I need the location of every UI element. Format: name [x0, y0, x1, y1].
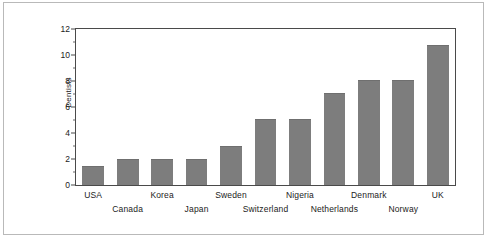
bar-nigeria: [289, 119, 311, 185]
bar-denmark: [358, 80, 380, 185]
x-tick-label-switzerland: Switzerland: [243, 204, 289, 214]
x-tick-label-canada: Canada: [112, 204, 143, 214]
bar-slot: [317, 29, 351, 185]
bar-slot: [352, 29, 386, 185]
bar-japan: [186, 159, 208, 185]
y-tick-label: 2: [65, 154, 70, 164]
figure-container: Dentists 024681012 USACanadaKoreaJapanSw…: [0, 0, 488, 238]
y-tick-label: 0: [65, 180, 70, 190]
bar-norway: [392, 80, 414, 185]
y-tick-label: 6: [65, 102, 70, 112]
bar-korea: [151, 159, 173, 185]
bar-slot: [145, 29, 179, 185]
bar-slot: [386, 29, 420, 185]
y-tick-label: 4: [65, 128, 70, 138]
bar-slot: [110, 29, 144, 185]
x-tick-label-nigeria: Nigeria: [286, 190, 314, 200]
bar-canada: [117, 159, 139, 185]
bar-usa: [82, 166, 104, 186]
x-axis-labels: USACanadaKoreaJapanSwedenSwitzerlandNige…: [76, 186, 455, 232]
y-axis-ticks: 024681012: [52, 28, 75, 186]
bar-slot: [179, 29, 213, 185]
y-tick-label: 8: [65, 76, 70, 86]
bar-series: [76, 29, 455, 185]
bar-slot: [421, 29, 455, 185]
bar-slot: [214, 29, 248, 185]
bar-slot: [248, 29, 282, 185]
y-tick-label: 10: [61, 50, 70, 60]
bar-switzerland: [255, 119, 277, 185]
bar-netherlands: [324, 93, 346, 185]
bar-slot: [76, 29, 110, 185]
x-tick-label-korea: Korea: [150, 190, 173, 200]
y-tick-label: 12: [61, 24, 70, 34]
bar-slot: [283, 29, 317, 185]
bar-uk: [427, 45, 449, 185]
x-tick-label-japan: Japan: [185, 204, 209, 214]
x-tick-label-denmark: Denmark: [351, 190, 387, 200]
x-tick-label-usa: USA: [84, 190, 102, 200]
bar-sweden: [220, 146, 242, 185]
x-tick-label-uk: UK: [432, 190, 444, 200]
x-tick-label-norway: Norway: [388, 204, 418, 214]
x-tick-label-sweden: Sweden: [215, 190, 247, 200]
x-tick-label-netherlands: Netherlands: [311, 204, 358, 214]
